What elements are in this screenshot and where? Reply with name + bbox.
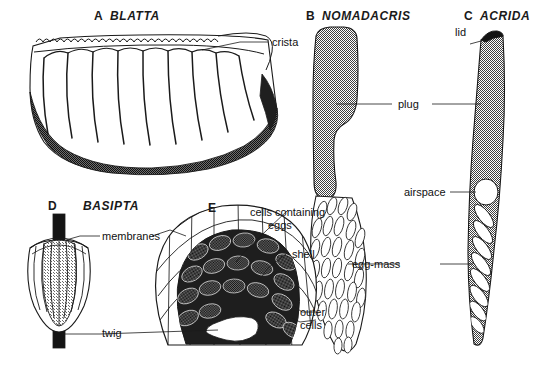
label-outer-cells: outer cells — [300, 306, 325, 331]
label-lid: lid — [455, 26, 466, 39]
specimen-a-blatta-drawing — [30, 33, 278, 175]
caption-b-genus: NOMADACRIS — [322, 9, 411, 23]
caption-a: ABLATTA — [94, 6, 160, 24]
caption-d-genus: BASIPTA — [83, 199, 139, 213]
label-egg-mass: egg-mass — [352, 258, 400, 271]
label-shell: shell — [292, 248, 315, 261]
label-twig: twig — [102, 327, 122, 340]
caption-c-letter: C — [464, 9, 473, 23]
label-plug: plug — [398, 98, 419, 111]
label-cells-containing-eggs-line1: cells containing — [250, 206, 325, 218]
label-airspace: airspace — [404, 186, 446, 199]
illustration-plate: ABLATTA BNOMADACRIS CACRIDA DBASIPTA E c… — [0, 0, 536, 365]
caption-d-letter: D — [48, 199, 57, 213]
caption-b: BNOMADACRIS — [306, 6, 411, 24]
plate-drawing — [0, 0, 536, 365]
caption-b-letter: B — [306, 9, 315, 23]
caption-a-genus: BLATTA — [110, 9, 160, 23]
caption-a-letter: A — [94, 9, 103, 23]
label-crista: crista — [272, 36, 298, 49]
caption-d: DBASIPTA — [48, 196, 139, 214]
specimen-d-basipta-drawing — [28, 214, 100, 348]
label-cells-containing-eggs: cells containing eggs — [250, 206, 325, 231]
caption-e-letter: E — [208, 201, 216, 215]
label-outer-cells-line1: outer — [300, 306, 325, 318]
label-membranes: membranes — [102, 230, 160, 243]
caption-c: CACRIDA — [464, 6, 530, 24]
label-cells-containing-eggs-line2: eggs — [268, 219, 292, 232]
caption-c-genus: ACRIDA — [480, 9, 530, 23]
caption-e: E — [208, 198, 216, 216]
label-outer-cells-line2: cells — [300, 319, 322, 331]
